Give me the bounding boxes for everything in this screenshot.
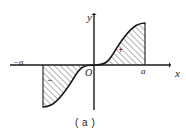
origin-label: O bbox=[85, 68, 92, 78]
x-axis-label: x bbox=[175, 68, 180, 79]
figure-container: y x O −a a + − ( a ) bbox=[0, 0, 186, 139]
negative-sign-annotation: − bbox=[47, 76, 52, 85]
y-axis-label: y bbox=[87, 12, 92, 23]
positive-sign-annotation: + bbox=[118, 46, 123, 55]
figure-caption: ( a ) bbox=[75, 118, 95, 128]
tick-label-negative-a: −a bbox=[13, 58, 24, 67]
tick-label-positive-a: a bbox=[141, 67, 146, 76]
